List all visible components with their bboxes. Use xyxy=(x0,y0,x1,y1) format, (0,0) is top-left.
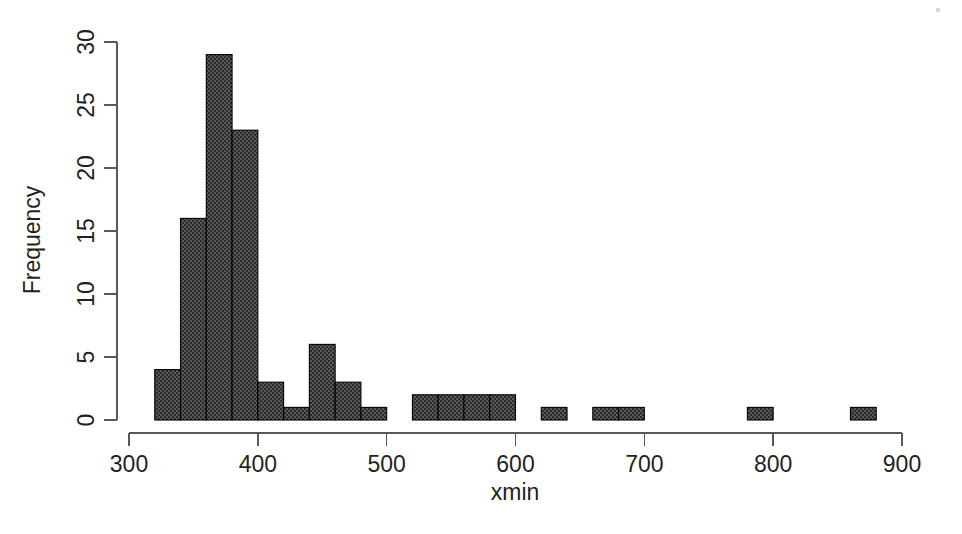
y-axis-title: Frequency xyxy=(19,185,45,294)
x-tick-label: 300 xyxy=(110,451,148,477)
x-tick-label: 500 xyxy=(367,451,405,477)
histogram-bar xyxy=(593,407,619,420)
x-tick-label: 900 xyxy=(883,451,921,477)
y-tick-label: 15 xyxy=(73,218,99,244)
histogram-bar xyxy=(309,344,335,420)
histogram-svg: 051015202530 Frequency 30040050060070080… xyxy=(0,0,962,534)
histogram-bar xyxy=(181,218,207,420)
histogram-bar xyxy=(619,407,645,420)
x-tick-label: 600 xyxy=(496,451,534,477)
y-tick-label: 0 xyxy=(73,414,99,427)
histogram-bar xyxy=(206,55,232,420)
y-tick-label: 10 xyxy=(73,281,99,307)
histogram-bar xyxy=(155,370,181,420)
histogram-bar xyxy=(412,395,438,420)
x-tick-label: 400 xyxy=(239,451,277,477)
histogram-bar xyxy=(361,407,387,420)
y-tick-label: 5 xyxy=(73,351,99,364)
histogram-bar xyxy=(541,407,567,420)
histogram-bar xyxy=(258,382,284,420)
x-tick-label: 700 xyxy=(625,451,663,477)
y-tick-label: 25 xyxy=(73,92,99,118)
histogram-bar xyxy=(232,130,258,420)
histogram-bar xyxy=(490,395,516,420)
histogram-figure: 051015202530 Frequency 30040050060070080… xyxy=(0,0,962,534)
histogram-bar xyxy=(335,382,361,420)
x-axis-title: xmin xyxy=(491,479,540,505)
histogram-bar xyxy=(438,395,464,420)
histogram-bar xyxy=(464,395,490,420)
scan-speck xyxy=(936,8,940,12)
histogram-bar xyxy=(747,407,773,420)
x-tick-label: 800 xyxy=(754,451,792,477)
y-tick-label: 30 xyxy=(73,29,99,55)
histogram-bar xyxy=(850,407,876,420)
histogram-bar xyxy=(284,407,310,420)
y-tick-label: 20 xyxy=(73,155,99,181)
